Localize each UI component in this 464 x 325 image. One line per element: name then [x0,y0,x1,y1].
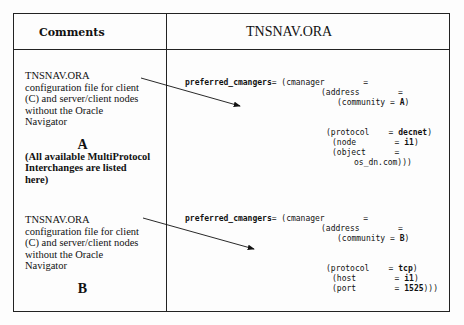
arrow-b-icon [143,218,254,249]
callout-arrows [0,0,464,325]
arrow-a-icon [141,78,240,106]
